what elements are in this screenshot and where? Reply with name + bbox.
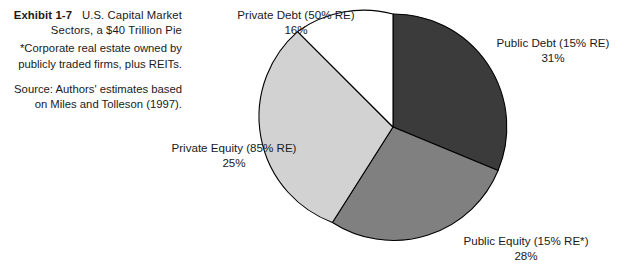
pie-chart: Private Debt (50% RE) 16% Public Debt (1… [190,0,631,274]
exhibit-caption: Exhibit 1-7 U.S. Capital Market Sectors,… [4,8,182,112]
pie-label-private-equity-name: Private Equity (85% RE) [146,141,322,156]
pie-label-public-debt-name: Public Debt (15% RE) [477,36,629,51]
pie-label-public-equity-value: 28% [426,249,626,264]
pie-label-public-equity: Public Equity (15% RE*) 28% [426,234,626,263]
pie-label-private-debt: Private Debt (50% RE) 16% [216,8,376,37]
pie-label-private-debt-name: Private Debt (50% RE) [216,8,376,23]
pie-label-private-debt-value: 16% [216,23,376,38]
exhibit-figure: Exhibit 1-7 U.S. Capital Market Sectors,… [0,0,631,274]
pie-label-public-debt-value: 31% [477,51,629,66]
exhibit-source: Source: Authors' estimates based on Mile… [4,82,182,112]
pie-label-private-equity-value: 25% [146,156,322,171]
exhibit-number: Exhibit 1-7 [14,9,72,21]
exhibit-footnote: *Corporate real estate owned by publicly… [4,41,182,71]
pie-label-private-equity: Private Equity (85% RE) 25% [146,141,322,170]
pie-label-public-debt: Public Debt (15% RE) 31% [477,36,629,65]
exhibit-title: Exhibit 1-7 U.S. Capital Market Sectors,… [4,8,182,38]
pie-label-public-equity-name: Public Equity (15% RE*) [426,234,626,249]
